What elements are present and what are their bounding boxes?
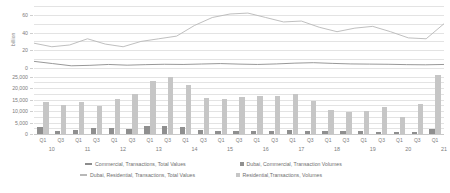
- x-tick-year-18: 18: [319, 146, 355, 152]
- x-tick-quarter-0: Q1: [34, 137, 52, 143]
- line-series-svg: [34, 6, 444, 68]
- legend-label: Residential,Transactions, Volumes: [243, 172, 322, 178]
- tick-mark: [30, 100, 33, 101]
- bar: [257, 96, 262, 134]
- bar: [275, 96, 280, 134]
- bar-baseline: [34, 134, 444, 135]
- x-tick-quarter-21: Q3: [408, 137, 426, 143]
- line-dubai-residential-transactions-total-values: [34, 13, 444, 47]
- x-tick-year-11: 11: [70, 146, 106, 152]
- tick-mark: [30, 123, 33, 124]
- x-tick-year-20: 20: [391, 146, 427, 152]
- tick-mark: [30, 50, 33, 51]
- gridline: [34, 88, 444, 89]
- x-tick-quarter-9: Q3: [194, 137, 212, 143]
- x-tick-quarter-18: Q1: [355, 137, 373, 143]
- bar: [61, 105, 66, 134]
- x-tick-quarter-6: Q1: [141, 137, 159, 143]
- legend-square-marker-icon: [236, 173, 240, 177]
- gridline: [34, 77, 444, 78]
- y-tick-bottom-3: 15,000: [0, 97, 28, 103]
- x-tick-year-14: 14: [177, 146, 213, 152]
- legend-label: Commercial, Transactions, Total Values: [95, 161, 186, 167]
- bar: [97, 106, 102, 134]
- legend-item[interactable]: Residential,Transactions, Volumes: [236, 172, 322, 178]
- bar: [168, 77, 173, 134]
- tick-mark: [30, 15, 33, 16]
- x-tick-quarter-12: Q1: [248, 137, 266, 143]
- gridline: [34, 94, 444, 95]
- x-tick-quarter-16: Q1: [319, 137, 337, 143]
- legend-line-marker-icon: [80, 174, 87, 175]
- bar: [311, 101, 316, 134]
- legend-label: Dubai, Commercial, Transaction Volumes: [247, 161, 342, 167]
- x-tick-year-17: 17: [284, 146, 320, 152]
- legend-item[interactable]: Commercial, Transactions, Total Values: [85, 161, 186, 167]
- legend-square-marker-icon: [240, 162, 244, 166]
- bar: [346, 112, 351, 134]
- dubai-transactions-chart: billion Q1Q3Q1Q3Q1Q3Q1Q3Q1Q3Q1Q3Q1Q3Q1Q3…: [0, 0, 450, 193]
- bar: [204, 98, 209, 135]
- x-tick-quarter-2: Q1: [70, 137, 88, 143]
- x-tick-year-12: 12: [105, 146, 141, 152]
- bar: [115, 99, 120, 134]
- bar: [400, 117, 405, 134]
- bar: [144, 126, 149, 134]
- bar: [162, 126, 167, 135]
- tick-mark: [30, 33, 33, 34]
- line-commercial-transactions-total-values: [34, 61, 444, 65]
- bar: [382, 107, 387, 134]
- legend-line-marker-icon: [85, 163, 92, 164]
- x-tick-quarter-13: Q3: [266, 137, 284, 143]
- tick-mark: [30, 134, 33, 135]
- x-tick-quarter-22: Q1: [426, 137, 444, 143]
- y-tick-bottom-1: 5,000: [0, 120, 28, 126]
- x-tick-quarter-5: Q3: [123, 137, 141, 143]
- x-tick-quarter-15: Q3: [301, 137, 319, 143]
- y-tick-bottom-4: 20,000: [0, 85, 28, 91]
- legend-item[interactable]: Dubai, Commercial, Transaction Volumes: [240, 161, 342, 167]
- x-tick-quarter-7: Q3: [159, 137, 177, 143]
- bar: [37, 127, 42, 134]
- x-tick-year-21: 21: [426, 146, 450, 152]
- legend-label: Dubai, Residential, Transactions, Total …: [90, 172, 195, 178]
- x-tick-quarter-4: Q1: [105, 137, 123, 143]
- x-tick-year-15: 15: [212, 146, 248, 152]
- bar: [418, 104, 423, 134]
- bar-panel: [34, 72, 444, 134]
- x-tick-quarter-20: Q1: [391, 137, 409, 143]
- y-tick-top-40: 40: [0, 30, 28, 36]
- x-tick-quarter-3: Q3: [87, 137, 105, 143]
- tick-mark: [30, 68, 33, 69]
- bar: [435, 75, 440, 134]
- tick-mark: [30, 88, 33, 89]
- x-tick-year-13: 13: [141, 146, 177, 152]
- x-tick-quarter-8: Q1: [177, 137, 195, 143]
- bar: [79, 102, 84, 134]
- y-tick-bottom-0: 0: [0, 131, 28, 137]
- bar: [180, 127, 185, 134]
- y-tick-top-60: 60: [0, 12, 28, 18]
- bar: [43, 102, 48, 134]
- x-tick-quarter-10: Q1: [212, 137, 230, 143]
- bar: [132, 94, 137, 134]
- bar: [150, 81, 155, 134]
- legend-item[interactable]: Dubai, Residential, Transactions, Total …: [80, 172, 195, 178]
- gridline: [34, 82, 444, 83]
- bar: [364, 111, 369, 134]
- line-panel: [34, 6, 444, 68]
- x-tick-year-16: 16: [248, 146, 284, 152]
- bar: [186, 85, 191, 134]
- x-tick-quarter-1: Q3: [52, 137, 70, 143]
- gridline: [34, 68, 444, 69]
- y-tick-top-20: 20: [0, 47, 28, 53]
- bar: [328, 110, 333, 134]
- y-tick-top-0: 0: [0, 65, 28, 71]
- y-tick-bottom-2: 10,000: [0, 108, 28, 114]
- x-tick-year-10: 10: [34, 146, 70, 152]
- tick-mark: [30, 111, 33, 112]
- x-tick-year-19: 19: [355, 146, 391, 152]
- x-tick-quarter-19: Q3: [373, 137, 391, 143]
- tick-mark: [30, 77, 33, 78]
- bar: [293, 94, 298, 134]
